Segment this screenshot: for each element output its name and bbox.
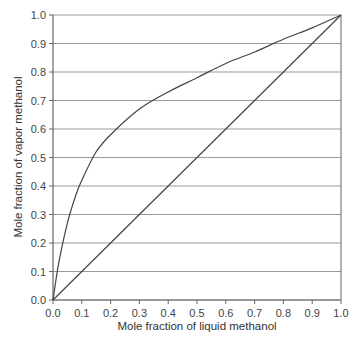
- vle-chart: 0.00.10.20.30.40.50.60.70.80.91.0 0.00.1…: [0, 0, 360, 348]
- x-tick-label: 0.8: [276, 307, 291, 319]
- y-axis-ticks: 0.00.10.20.30.40.50.60.70.80.91.0: [31, 9, 53, 306]
- y-tick-label: 1.0: [31, 9, 46, 21]
- x-axis-ticks: 0.00.10.20.30.40.50.60.70.80.91.0: [45, 300, 348, 319]
- y-tick-label: 0.1: [31, 266, 46, 278]
- x-tick-label: 0.4: [161, 307, 176, 319]
- y-tick-label: 0.8: [31, 66, 46, 78]
- x-tick-label: 0.5: [189, 307, 204, 319]
- y-tick-label: 0.5: [31, 152, 46, 164]
- x-tick-label: 0.2: [103, 307, 118, 319]
- y-tick-label: 0.3: [31, 209, 46, 221]
- x-tick-label: 1.0: [333, 307, 348, 319]
- y-tick-label: 0.7: [31, 95, 46, 107]
- y-tick-label: 0.0: [31, 294, 46, 306]
- y-tick-label: 0.4: [31, 180, 46, 192]
- x-axis-label: Mole fraction of liquid methanol: [117, 320, 276, 332]
- x-tick-label: 0.3: [132, 307, 147, 319]
- y-tick-label: 0.2: [31, 237, 46, 249]
- x-tick-label: 0.7: [247, 307, 262, 319]
- y-axis-label: Mole fraction of vapor methanol: [12, 76, 24, 237]
- x-tick-label: 0.6: [218, 307, 233, 319]
- x-tick-label: 0.0: [45, 307, 60, 319]
- y-tick-label: 0.9: [31, 38, 46, 50]
- x-tick-label: 0.1: [74, 307, 89, 319]
- y-tick-label: 0.6: [31, 123, 46, 135]
- x-tick-label: 0.9: [305, 307, 320, 319]
